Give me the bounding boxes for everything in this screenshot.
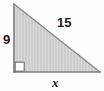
right-angle-marker-icon — [15, 62, 24, 71]
geometry-figure: 9 15 x — [0, 0, 104, 91]
hypotenuse-length-label: 15 — [57, 16, 71, 29]
vertical-leg-length-label: 9 — [3, 33, 10, 46]
horizontal-leg-length-label: x — [52, 76, 59, 89]
